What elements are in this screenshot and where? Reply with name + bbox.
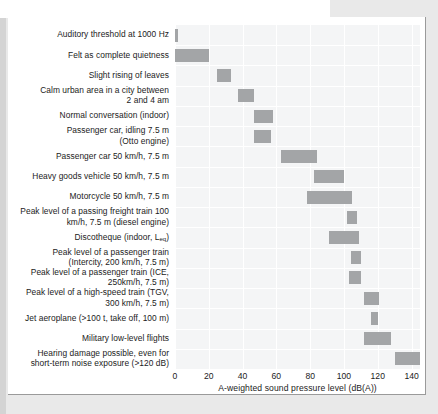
bar xyxy=(371,312,378,325)
category-label-line: Jet aeroplane (>100 t, take off, 100 m) xyxy=(14,313,169,323)
category-label-line: Heavy goods vehicle 50 km/h, 7.5 m xyxy=(14,171,169,181)
x-tick-label: 20 xyxy=(204,371,214,381)
gridline-vertical xyxy=(412,25,413,369)
gridline-vertical xyxy=(378,25,379,369)
bar xyxy=(254,110,273,123)
gridline-vertical xyxy=(209,25,210,369)
category-label: Hearing damage possible, even forshort-t… xyxy=(14,348,169,369)
category-label: Peak level of a passenger train (ICE,250… xyxy=(14,267,169,288)
bar xyxy=(238,89,255,102)
gridline-vertical xyxy=(276,25,277,369)
category-label-line: Passenger car 50 km/h, 7.5 m xyxy=(14,151,169,161)
category-label: Felt as complete quietness xyxy=(14,50,169,60)
bar xyxy=(329,231,359,244)
category-label: Normal conversation (indoor) xyxy=(14,110,169,120)
gridline-horizontal xyxy=(175,126,420,127)
x-tick-label: 80 xyxy=(305,371,315,381)
category-label-line: Motorcycle 50 km/h, 7.5 m xyxy=(14,191,169,201)
category-label-line: Felt as complete quietness xyxy=(14,50,169,60)
gridline-horizontal xyxy=(175,187,420,188)
category-label-line: Hearing damage possible, even for xyxy=(14,348,169,358)
gridline-horizontal xyxy=(175,207,420,208)
category-label: Military low-level flights xyxy=(14,333,169,343)
category-label-line: (Otto engine) xyxy=(14,136,169,146)
category-label: Peak level of a high-speed train (TGV,30… xyxy=(14,287,169,308)
category-axis-labels: Auditory threshold at 1000 HzFelt as com… xyxy=(14,25,173,369)
category-label-line: Military low-level flights xyxy=(14,333,169,343)
page-background-top xyxy=(0,0,330,18)
gridline-vertical xyxy=(175,25,176,369)
gridline-horizontal xyxy=(175,268,420,269)
noise-level-chart: Auditory threshold at 1000 HzFelt as com… xyxy=(8,17,425,394)
gridline-horizontal xyxy=(175,227,420,228)
gridline-vertical xyxy=(243,25,244,369)
category-label-line: Calm urban area in a city between xyxy=(14,85,169,95)
category-label-line: Passenger car, idling 7.5 m xyxy=(14,125,169,135)
category-label: Discotheque (indoor, Leq) xyxy=(14,232,169,244)
category-label-line: Normal conversation (indoor) xyxy=(14,110,169,120)
category-label: Jet aeroplane (>100 t, take off, 100 m) xyxy=(14,313,169,323)
category-label-line: Peak level of a passing freight train 10… xyxy=(14,206,169,216)
bar xyxy=(175,29,178,42)
x-axis-title: A-weighted sound pressure level (dB(A)) xyxy=(175,383,420,393)
category-label-line: Peak level of a high-speed train (TGV, xyxy=(14,287,169,297)
gridline-horizontal xyxy=(175,288,420,289)
x-tick-label: 100 xyxy=(337,371,351,381)
gridline-horizontal xyxy=(175,329,420,330)
gridline-horizontal xyxy=(175,167,420,168)
category-label: Motorcycle 50 km/h, 7.5 m xyxy=(14,191,169,201)
bar xyxy=(217,69,231,82)
category-label: Passenger car, idling 7.5 m(Otto engine) xyxy=(14,125,169,146)
category-label-line: Peak level of a passenger train (ICE, xyxy=(14,267,169,277)
bar xyxy=(254,130,271,143)
gridline-horizontal xyxy=(175,146,420,147)
category-label-line: 2 and 4 am xyxy=(14,95,169,105)
x-tick-label: 0 xyxy=(173,371,178,381)
bar xyxy=(349,271,361,284)
gridline-horizontal xyxy=(175,248,420,249)
bar xyxy=(364,292,379,305)
bar xyxy=(175,49,209,62)
bar xyxy=(307,191,353,204)
bar xyxy=(281,150,316,163)
gridline-horizontal xyxy=(175,308,420,309)
category-label: Heavy goods vehicle 50 km/h, 7.5 m xyxy=(14,171,169,181)
plot-area xyxy=(175,25,420,369)
category-label: Auditory threshold at 1000 Hz xyxy=(14,29,169,39)
x-tick-label: 60 xyxy=(272,371,282,381)
category-label-line: Peak level of a passenger train xyxy=(14,247,169,257)
x-tick-label: 120 xyxy=(371,371,385,381)
category-label-line: km/h, 7.5 m (diesel engine) xyxy=(14,217,169,227)
gridline-horizontal xyxy=(175,349,420,350)
category-label-line: Slight rising of leaves xyxy=(14,70,169,80)
category-label: Slight rising of leaves xyxy=(14,70,169,80)
figure-card: Auditory threshold at 1000 HzFelt as com… xyxy=(8,17,426,395)
bar xyxy=(364,332,391,345)
x-tick-label: 40 xyxy=(238,371,248,381)
bar xyxy=(351,251,361,264)
gridline-horizontal xyxy=(175,45,420,46)
category-label-line: 300 km/h, 7.5 m) xyxy=(14,298,169,308)
category-label: Calm urban area in a city between2 and 4… xyxy=(14,85,169,106)
bar xyxy=(314,170,344,183)
gridline-horizontal xyxy=(175,86,420,87)
category-label: Passenger car 50 km/h, 7.5 m xyxy=(14,151,169,161)
category-label: Peak level of a passing freight train 10… xyxy=(14,206,169,227)
category-label-line: Auditory threshold at 1000 Hz xyxy=(14,29,169,39)
gridline-horizontal xyxy=(175,106,420,107)
bar xyxy=(347,211,357,224)
x-tick-label: 140 xyxy=(404,371,418,381)
gridline-horizontal xyxy=(175,65,420,66)
category-label-line: short-term noise exposure (>120 dB) xyxy=(14,358,169,368)
bar xyxy=(395,352,420,365)
category-label: Peak level of a passenger train(Intercit… xyxy=(14,247,169,268)
